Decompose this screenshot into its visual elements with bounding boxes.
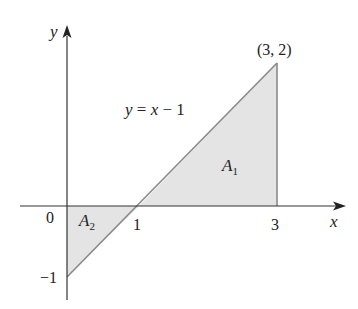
tick-label-ym1: −1 — [40, 269, 57, 286]
point-label-3-2: (3, 2) — [257, 41, 292, 59]
origin-label: 0 — [46, 209, 54, 226]
curve-label: y = x − 1 — [123, 100, 185, 119]
diagram-canvas: y x 0 1 3 −1 (3, 2) y = x − 1 A1 A2 — [0, 0, 358, 309]
tick-label-x1: 1 — [133, 216, 141, 233]
y-axis-label: y — [48, 22, 58, 41]
x-axis-label: x — [329, 212, 338, 231]
tick-label-x3: 3 — [271, 216, 279, 233]
